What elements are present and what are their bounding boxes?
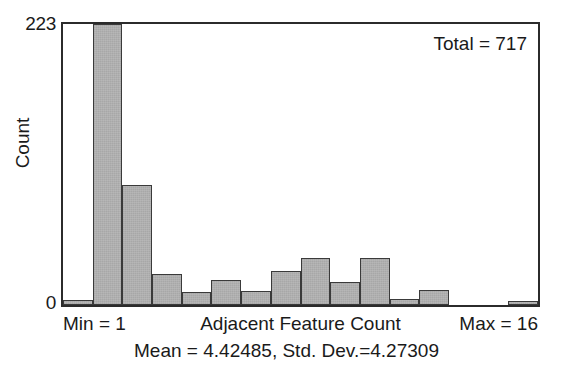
histogram-bar — [93, 24, 123, 305]
y-axis-max-tick-label: 223 — [8, 13, 56, 35]
histogram-bar — [241, 291, 271, 305]
histogram-bar — [301, 258, 331, 305]
histogram-bar — [419, 290, 449, 305]
histogram-bars — [63, 24, 538, 305]
histogram-bar — [182, 292, 212, 305]
histogram-figure: 223 0 Count Total = 717 Min = 1 Adjacent… — [0, 0, 573, 383]
histogram-bar — [122, 185, 152, 305]
max-annotation: Max = 16 — [459, 313, 538, 335]
plot-area: Total = 717 — [61, 22, 540, 307]
y-axis-title: Count — [12, 103, 34, 183]
x-axis-text-row: Min = 1 Adjacent Feature Count Max = 16 — [61, 313, 540, 339]
statistics-caption: Mean = 4.42485, Std. Dev.=4.27309 — [0, 340, 573, 362]
histogram-bar — [508, 301, 538, 305]
histogram-bar — [390, 299, 420, 305]
total-annotation: Total = 717 — [434, 33, 528, 55]
histogram-bar — [63, 300, 93, 305]
histogram-bar — [330, 282, 360, 305]
histogram-bar — [211, 280, 241, 305]
y-axis-min-tick-label: 0 — [8, 292, 56, 314]
histogram-bar — [152, 274, 182, 306]
histogram-bar — [360, 258, 390, 305]
histogram-bar — [271, 271, 301, 305]
